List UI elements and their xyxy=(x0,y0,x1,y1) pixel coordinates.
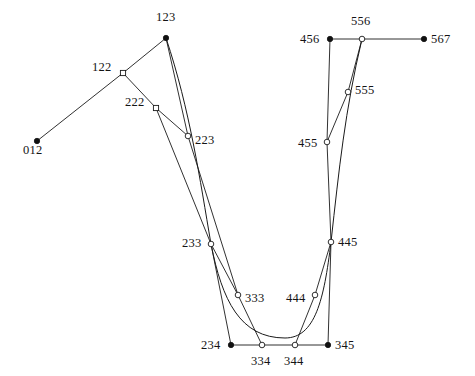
point-label-556: 556 xyxy=(351,15,370,28)
point-label-455: 455 xyxy=(298,137,317,150)
point-marker-233 xyxy=(208,241,214,247)
polygon-segment-445-455 xyxy=(327,142,331,242)
point-marker-344 xyxy=(292,342,298,348)
point-marker-122 xyxy=(120,70,125,75)
point-marker-445 xyxy=(328,239,334,245)
polygon-segment-444-445 xyxy=(315,242,331,295)
point-label-344: 344 xyxy=(284,355,303,368)
polygon-segment-122-123 xyxy=(123,38,166,73)
polygon-segment-012-122 xyxy=(37,73,123,141)
point-label-567: 567 xyxy=(431,33,450,46)
point-marker-222 xyxy=(153,105,158,110)
point-label-234: 234 xyxy=(201,339,220,352)
polygon-segment-455-456 xyxy=(327,39,330,142)
point-label-444: 444 xyxy=(286,292,305,305)
point-marker-333 xyxy=(235,292,241,298)
point-label-445: 445 xyxy=(338,236,357,249)
bezier-subdivision-figure: 0121221232222232333332343343443454444454… xyxy=(0,0,475,376)
point-marker-455 xyxy=(324,139,330,145)
diagram-canvas xyxy=(0,0,475,376)
point-label-122: 122 xyxy=(92,61,111,74)
polygon-segment-455-555 xyxy=(327,92,348,142)
point-marker-234 xyxy=(228,342,233,347)
point-marker-556 xyxy=(359,36,365,42)
polygon-segment-445-345 xyxy=(328,242,331,345)
polygon-segment-222-233 xyxy=(156,108,211,244)
point-marker-567 xyxy=(421,36,426,41)
point-label-222: 222 xyxy=(125,96,144,109)
point-label-123: 123 xyxy=(156,11,175,24)
point-marker-456 xyxy=(327,36,332,41)
point-marker-345 xyxy=(325,342,330,347)
point-label-345: 345 xyxy=(335,339,354,352)
point-label-233: 233 xyxy=(182,237,201,250)
point-label-555: 555 xyxy=(355,84,374,97)
polygon-segment-123-223 xyxy=(166,38,188,136)
polygon-segment-222-223 xyxy=(156,108,188,136)
point-label-334: 334 xyxy=(251,355,270,368)
polygon-segment-223-333 xyxy=(188,136,238,295)
point-label-333: 333 xyxy=(245,292,264,305)
point-marker-334 xyxy=(259,342,265,348)
point-label-456: 456 xyxy=(300,33,319,46)
point-marker-123 xyxy=(163,35,168,40)
point-marker-223 xyxy=(185,133,191,139)
point-label-012: 012 xyxy=(23,144,42,157)
point-label-223: 223 xyxy=(195,134,214,147)
point-marker-444 xyxy=(312,292,318,298)
point-marker-555 xyxy=(345,89,351,95)
